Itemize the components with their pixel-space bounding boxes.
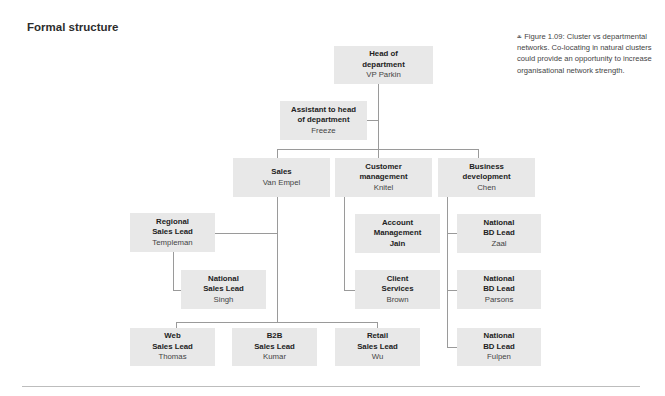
node-person: Freeze bbox=[311, 126, 335, 137]
connector-bd1 bbox=[447, 233, 457, 234]
connector-bd2 bbox=[447, 290, 457, 291]
node-role: of department bbox=[298, 115, 350, 126]
node-national-bd-lead-parsons: National BD Lead Parsons bbox=[457, 270, 541, 309]
node-role: Sales Lead bbox=[152, 227, 193, 238]
connector-head-down bbox=[378, 84, 379, 149]
node-b2b-sales-lead: B2B Sales Lead Kumar bbox=[232, 328, 317, 366]
node-person: Van Empel bbox=[263, 178, 301, 189]
node-role: development bbox=[462, 172, 510, 183]
node-role: BD Lead bbox=[483, 284, 515, 295]
node-role: management bbox=[359, 172, 407, 183]
figure-caption: ⩡ Figure 1.09: Cluster vs departmental n… bbox=[517, 31, 657, 76]
node-client-services: Client Services Brown bbox=[355, 270, 440, 309]
node-person: Parsons bbox=[485, 295, 514, 306]
connector-sales-down bbox=[277, 197, 278, 322]
node-person: Templeman bbox=[152, 238, 192, 249]
node-role: B2B bbox=[267, 331, 283, 342]
node-role: Customer bbox=[365, 162, 401, 173]
node-person: Knitel bbox=[374, 183, 394, 194]
connector-customer-up bbox=[378, 149, 379, 158]
node-regional-sales-lead: Regional Sales Lead Templeman bbox=[130, 213, 215, 252]
node-role: Sales Lead bbox=[152, 342, 193, 353]
node-role: Business bbox=[469, 162, 504, 173]
node-person: Wu bbox=[372, 352, 384, 363]
connector-customer-down bbox=[344, 197, 345, 290]
connector-singh bbox=[173, 290, 181, 291]
node-role: Regional bbox=[156, 217, 189, 228]
node-role: National bbox=[484, 331, 515, 342]
connector-bd3 bbox=[447, 347, 457, 348]
node-customer-management: Customer management Knitel bbox=[335, 158, 432, 197]
node-national-bd-lead-fulpen: National BD Lead Fulpen bbox=[457, 328, 541, 366]
connector-regional-down bbox=[173, 252, 174, 290]
node-role: Web bbox=[164, 331, 180, 342]
node-role: Sales Lead bbox=[254, 342, 295, 353]
connector-client bbox=[344, 290, 355, 291]
node-account-management: Account Management Jain bbox=[355, 214, 440, 253]
node-person: Chen bbox=[477, 183, 496, 194]
node-role: BD Lead bbox=[483, 228, 515, 239]
node-role: Sales Lead bbox=[203, 284, 244, 295]
node-role: BD Lead bbox=[483, 342, 515, 353]
node-role: Services bbox=[381, 284, 413, 295]
node-role: Management bbox=[374, 228, 422, 239]
node-role: Retail bbox=[367, 331, 388, 342]
bottom-divider bbox=[22, 386, 640, 387]
node-role: Sales bbox=[271, 167, 291, 178]
connector-assistant bbox=[367, 120, 378, 121]
node-national-sales-lead: National Sales Lead Singh bbox=[181, 270, 266, 309]
node-person: Singh bbox=[214, 295, 234, 306]
node-role: National bbox=[484, 218, 515, 229]
node-person: Zaal bbox=[491, 239, 506, 250]
caption-text: Figure 1.09: Cluster vs departmental net… bbox=[517, 32, 652, 75]
node-role: National bbox=[484, 274, 515, 285]
node-person: Kumar bbox=[263, 352, 286, 363]
node-role: Sales Lead bbox=[357, 342, 398, 353]
connector-sales-bus bbox=[176, 322, 378, 323]
connector-business-down bbox=[447, 197, 448, 347]
node-role: department bbox=[362, 60, 404, 71]
node-person: Thomas bbox=[158, 352, 186, 363]
node-business-development: Business development Chen bbox=[438, 158, 535, 197]
connector-sales-up bbox=[277, 149, 278, 158]
node-person: Jain bbox=[390, 239, 406, 250]
node-sales: Sales Van Empel bbox=[233, 158, 330, 197]
connector-regional bbox=[215, 233, 277, 234]
connector-business-up bbox=[478, 149, 479, 158]
node-person: VP Parkin bbox=[366, 70, 401, 81]
node-role: Head of bbox=[369, 49, 398, 60]
node-assistant: Assistant to head of department Freeze bbox=[280, 101, 367, 140]
node-role: National bbox=[208, 274, 239, 285]
diagram-title: Formal structure bbox=[27, 21, 118, 33]
node-role: Account bbox=[382, 218, 413, 229]
figure-marker-icon: ⩡ bbox=[517, 32, 522, 41]
node-retail-sales-lead: Retail Sales Lead Wu bbox=[335, 328, 420, 366]
node-web-sales-lead: Web Sales Lead Thomas bbox=[130, 328, 215, 366]
node-head: Head of department VP Parkin bbox=[334, 46, 433, 84]
node-national-bd-lead-zaal: National BD Lead Zaal bbox=[457, 214, 541, 253]
node-person: Fulpen bbox=[487, 352, 511, 363]
node-person: Brown bbox=[386, 295, 408, 306]
node-role: Assistant to head bbox=[291, 105, 356, 116]
node-role: Client bbox=[387, 274, 409, 285]
